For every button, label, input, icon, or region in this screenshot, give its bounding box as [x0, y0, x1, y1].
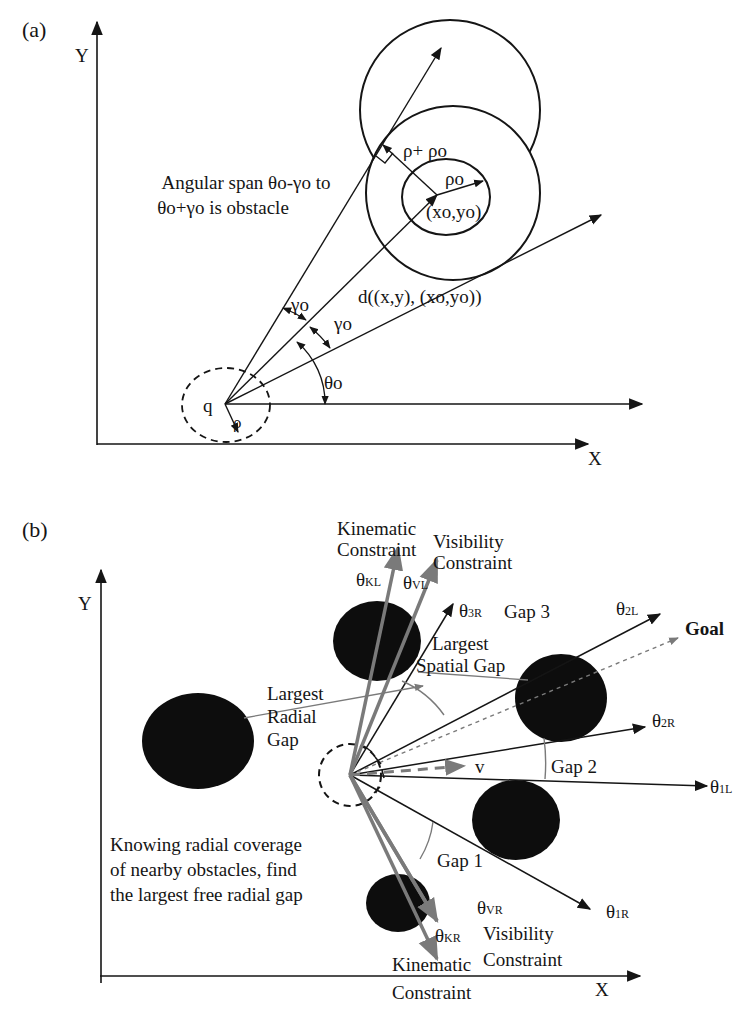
y-axis-label-a: Y [75, 45, 89, 66]
y-axis-label-b: Y [78, 593, 92, 614]
panel-a-obstacle-geometry: (a) Y X q ρ ρ+ ρo ρo (xo,yo) γo γo θo d(… [0, 0, 755, 500]
visibility-bottom-label-1: Visibility [483, 923, 554, 944]
velocity-label: v [475, 756, 485, 777]
note-line-1: Knowing radial coverage [110, 834, 302, 855]
obstacles [142, 601, 607, 932]
theta-1R-label: θ1R [606, 901, 629, 922]
gamma-o-label-2: γo [333, 313, 352, 334]
goal-label: Goal [685, 618, 724, 639]
note-line-2: of nearby obstacles, find [110, 859, 297, 880]
gamma-o-label-1: γo [290, 294, 309, 315]
visibility-top-label-2: Constraint [433, 552, 513, 573]
theta-VL-label: θVL [403, 572, 428, 593]
largest-spatial-gap-label-1: Largest [432, 633, 489, 654]
obstacle-left [142, 693, 254, 789]
panel-a-diagram: (a) Y X q ρ ρ+ ρo ρo (xo,yo) γo γo θo d(… [0, 0, 755, 500]
robot-radius-label: ρ [233, 413, 241, 432]
panel-b-diagram: (b) Y X Kinematic Constraint V [0, 500, 755, 1021]
gamma-arc-lower [310, 327, 330, 348]
theta-o-arc [297, 342, 325, 404]
x-axis-label-b: X [595, 979, 609, 1000]
rho-o-label: ρo [445, 168, 464, 189]
largest-radial-gap-label-2: Radial [267, 706, 317, 727]
visibility-bottom-label-2: Constraint [483, 949, 563, 970]
angular-span-annotation-2: θo+γo is obstacle [157, 197, 289, 218]
distance-label: d((x,y), (xo,yo)) [358, 286, 481, 308]
theta-KL-label: θKL [356, 569, 381, 590]
ray-theta-2R [350, 727, 645, 775]
gap2-label: Gap 2 [551, 756, 597, 777]
visibility-top-label-1: Visibility [433, 531, 504, 552]
gap1-arc [420, 822, 433, 859]
obstacle-outer-circle [366, 106, 540, 280]
theta-2R-label: θ2R [652, 710, 675, 731]
panel-b-tag: (b) [22, 517, 48, 542]
robot-label-q: q [203, 395, 213, 416]
kinematic-top-label-1: Kinematic [337, 518, 416, 539]
rho-plus-rho-o-label: ρ+ ρo [403, 140, 447, 161]
obstacle-right-upper [515, 654, 607, 742]
largest-radial-gap-label-1: Largest [267, 683, 324, 704]
kinematic-bottom-label-1: Kinematic [392, 954, 471, 975]
gap3-label: Gap 3 [504, 601, 550, 622]
obstacle-center-label: (xo,yo) [426, 201, 481, 223]
theta-KR-label: θKR [435, 925, 461, 946]
theta-o-label: θo [324, 372, 343, 393]
theta-VR-label: θVR [477, 897, 503, 918]
obstacle-right-lower [472, 780, 560, 860]
kinematic-top-label-2: Constraint [337, 539, 417, 560]
angular-span-annotation-1: Angular span θo-γo to [162, 172, 331, 193]
theta-2L-label: θ2L [616, 598, 638, 619]
panel-b-radial-gap-selection: (b) Y X Kinematic Constraint V [0, 500, 755, 1021]
largest-spatial-gap-label-2: Spatial Gap [416, 655, 505, 676]
gap2-arc [544, 738, 546, 779]
gap1-label: Gap 1 [437, 850, 483, 871]
theta-3R-label: θ3R [459, 600, 482, 621]
note-line-3: the largest free radial gap [110, 884, 303, 905]
largest-radial-gap-label-3: Gap [267, 729, 299, 750]
x-axis-label-a: X [588, 448, 602, 469]
theta-1L-label: θ1L [710, 776, 732, 797]
kinematic-bottom-label-2: Constraint [392, 982, 472, 1003]
panel-a-tag: (a) [22, 17, 46, 42]
